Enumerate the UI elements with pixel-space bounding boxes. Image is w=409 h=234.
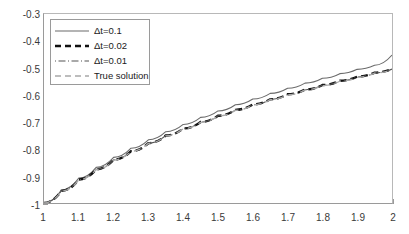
y-tick-label: -0.4: [0, 31, 40, 49]
x-tick-text: 1.5: [211, 212, 225, 223]
x-tick-label: 1.8: [316, 207, 330, 225]
series-line: [44, 69, 392, 203]
y-tick-text: -0.5: [23, 64, 40, 75]
legend-label: Δt=0.02: [94, 41, 127, 51]
x-tick-text: 1.6: [246, 212, 260, 223]
x-tick-label: 1.9: [351, 207, 365, 225]
y-tick-label: -1: [0, 195, 40, 213]
legend-item: Δt=0.01: [54, 53, 145, 68]
x-tick-label: 2: [390, 207, 396, 225]
x-tick-text: 1: [40, 212, 46, 223]
x-tick-label: 1.3: [141, 207, 155, 225]
x-tick-text: 1.9: [351, 212, 365, 223]
legend-line-sample-dt-0-02: [54, 40, 90, 52]
legend-item: Δt=0.1: [54, 23, 145, 38]
series-line: [44, 69, 392, 203]
y-tick-text: -0.7: [23, 118, 40, 129]
x-tick-label: 1.2: [106, 207, 120, 225]
y-tick-text: -0.3: [23, 9, 40, 20]
x-tick-text: 1.1: [71, 212, 85, 223]
legend-label: Δt=0.01: [94, 56, 127, 66]
series-line: [44, 69, 392, 203]
x-tick-text: 2: [390, 212, 396, 223]
x-tick-text: 1.7: [281, 212, 295, 223]
x-tick-label: 1.1: [71, 207, 85, 225]
legend-line-sample-dt-0-01: [54, 55, 90, 67]
legend-label: True solution: [94, 71, 149, 81]
y-tick-text: -0.9: [23, 173, 40, 184]
x-tick-text: 1.2: [106, 212, 120, 223]
y-tick-label: -0.7: [0, 113, 40, 131]
legend-item: True solution: [54, 68, 145, 83]
y-tick-mark: [43, 204, 48, 205]
x-tick-label: 1.6: [246, 207, 260, 225]
y-tick-text: -0.6: [23, 91, 40, 102]
legend-item: Δt=0.02: [54, 38, 145, 53]
x-tick-text: 1.4: [176, 212, 190, 223]
legend-line-sample-true-solution: [54, 70, 90, 82]
legend-label: Δt=0.1: [94, 26, 122, 36]
y-tick-label: -0.8: [0, 140, 40, 158]
y-tick-label: -0.6: [0, 86, 40, 104]
chart-legend: Δt=0.1 Δt=0.02 Δt=0.01 True solution: [50, 19, 150, 85]
y-tick-text: -1: [31, 200, 40, 211]
y-tick-label: -0.9: [0, 168, 40, 186]
y-tick-label: -0.5: [0, 59, 40, 77]
y-tick-text: -0.8: [23, 145, 40, 156]
x-tick-label: 1.7: [281, 207, 295, 225]
legend-line-sample-dt-0-1: [54, 25, 90, 37]
y-tick-text: -0.4: [23, 36, 40, 47]
y-tick-label: -0.3: [0, 4, 40, 22]
x-tick-label: 1.4: [176, 207, 190, 225]
x-tick-text: 1.8: [316, 212, 330, 223]
x-tick-text: 1.3: [141, 212, 155, 223]
x-tick-label: 1.5: [211, 207, 225, 225]
chart-figure: -0.3-0.4-0.5-0.6-0.7-0.8-0.9-1 11.11.21.…: [0, 0, 409, 234]
x-tick-mark: [393, 199, 394, 204]
x-tick-label: 1: [40, 207, 46, 225]
